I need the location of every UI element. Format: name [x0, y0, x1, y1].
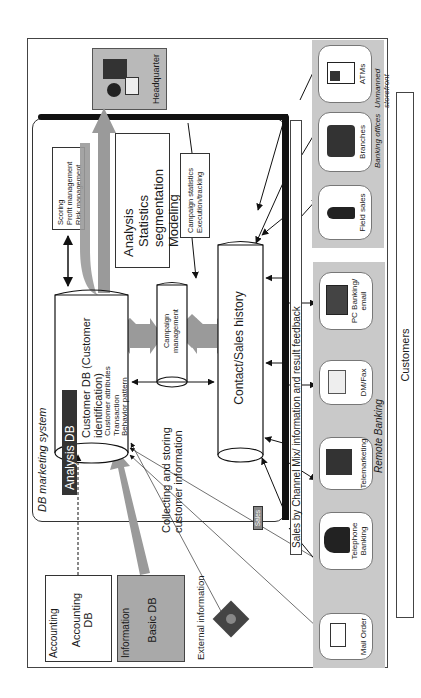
campaign-management-line2: management: [171, 286, 180, 376]
telephone-banking-line1: Telephone: [350, 513, 359, 569]
analysis-db-title: Analysis DB: [62, 390, 77, 495]
channel-label: Telemarketing: [359, 438, 368, 489]
collecting-storing-label: Collecting and storing customer informat…: [160, 383, 184, 533]
computer-icon: [326, 285, 348, 315]
accounting-label: Accounting: [48, 609, 60, 658]
channel-branches: Branches: [318, 112, 372, 172]
collecting-line2: customer information: [172, 383, 184, 533]
sales-tag: Sales: [253, 506, 263, 530]
channel-telemarketing: Telemarketing: [319, 437, 373, 490]
remote-banking-panel: Mail Order Telephone Banking Telemarketi…: [313, 262, 385, 668]
channel-label: PC Banking/ email: [350, 273, 368, 329]
behavior-pattern: Behavior pattern: [121, 296, 130, 436]
envelope-icon: [330, 623, 346, 647]
channel-mail-order: Mail Order: [319, 613, 373, 660]
atm-icon: [327, 62, 355, 84]
channel-label: Branches: [358, 113, 367, 171]
channel-field-sales: Field sales: [318, 185, 372, 240]
collecting-line1: Collecting and storing: [160, 383, 172, 533]
telephone-banking-line2: Banking: [359, 513, 368, 569]
bank-teller-icon: [327, 125, 355, 157]
gray-arrow-to-headquarter: [92, 108, 116, 293]
channel-label: DM/Fax: [359, 361, 368, 404]
channel-label: ATMs: [358, 46, 367, 102]
diagram-canvas: DB marketing system Headquarter Scoring …: [0, 0, 421, 698]
campaign-management-label: Campaign management: [162, 286, 180, 376]
external-information-label: External information: [195, 576, 206, 660]
remote-banking-caption: Remote Banking: [373, 399, 384, 473]
campaign-management-line1: Campaign: [162, 286, 171, 376]
contact-sales-history-label: Contact/Sales history: [232, 248, 246, 448]
channel-label: Field sales: [358, 186, 367, 239]
customer-db-heading: Customer DB (Customer identification): [80, 293, 104, 438]
customers-box: Customers: [396, 92, 414, 618]
channel-atms: ATMs: [318, 45, 372, 103]
customer-db-heading-line1: Customer DB (Customer: [80, 293, 92, 438]
storefront-panel: Field sales Branches ATMs Banking office…: [312, 40, 384, 248]
information-label: Information: [120, 608, 132, 658]
pc-banking-line2: email: [359, 273, 368, 329]
banking-offices-caption: Banking offices: [373, 114, 382, 168]
gray-arrow-basic-to-analysis: [110, 450, 150, 575]
channel-dm-fax: DM/Fax: [319, 360, 373, 405]
satellite-icon: [212, 600, 250, 640]
accounting-db-line1: Accounting: [70, 592, 82, 648]
customer-db-items: Customer attributes Transaction Behavior…: [104, 296, 130, 436]
accounting-db-line2: DB: [82, 592, 94, 648]
channel-label: Telephone Banking: [350, 513, 368, 569]
unmanned-storefront-caption: Unmanned storefront: [373, 40, 391, 108]
channel-pc-banking: PC Banking/ email: [319, 272, 373, 330]
telephone-operator-icon: [324, 527, 350, 553]
basic-db-label: Basic DB: [146, 592, 158, 648]
channel-label: Mail Order: [359, 614, 368, 659]
pc-banking-line1: PC Banking/: [350, 273, 359, 329]
sales-channel-feedback-bar: Sales by Channel Mix/ information and re…: [290, 120, 302, 555]
call-center-icon: [326, 449, 352, 475]
channel-telephone-banking: Telephone Banking: [319, 512, 373, 570]
salesperson-icon: [327, 207, 355, 219]
accounting-db-label: Accounting DB: [70, 592, 94, 648]
fax-mail-icon: [328, 370, 346, 394]
